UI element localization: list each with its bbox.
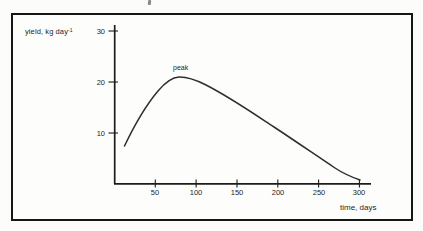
y-axis-title-exponent: -1 xyxy=(68,27,73,33)
y-axis-title-text: yield, kg day xyxy=(25,27,68,36)
x-tick-label-300: 300 xyxy=(344,188,374,197)
x-axis-title: time, days xyxy=(340,203,376,212)
x-tick-label-200: 200 xyxy=(263,188,293,197)
x-tick-label-250: 250 xyxy=(304,188,334,197)
x-tick-label-100: 100 xyxy=(181,188,211,197)
figure-page: yield, kg day-1 30 20 10 50 100 150 200 … xyxy=(0,0,423,231)
y-tick-marks xyxy=(109,31,119,133)
y-axis-title: yield, kg day-1 xyxy=(25,27,73,36)
peak-annotation: peak xyxy=(173,64,188,71)
x-tick-label-150: 150 xyxy=(222,188,252,197)
x-tick-label-50: 50 xyxy=(140,188,170,197)
yield-curve xyxy=(125,77,361,180)
y-tick-label-20: 20 xyxy=(85,78,105,87)
y-tick-label-10: 10 xyxy=(85,129,105,138)
y-tick-label-30: 30 xyxy=(85,27,105,36)
